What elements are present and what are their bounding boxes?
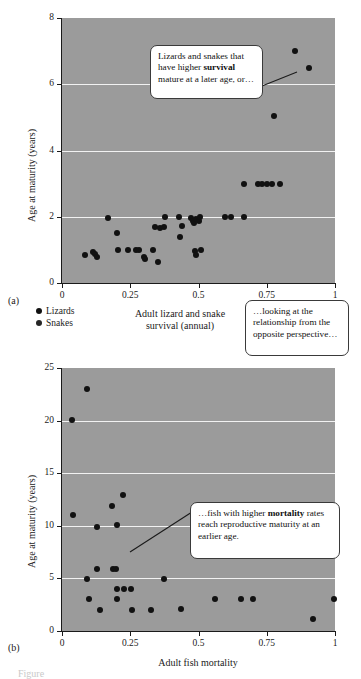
gridline-b: [62, 421, 335, 422]
x-axis-title-a-line2: survival (annual): [146, 320, 214, 331]
gridline-b: [62, 473, 335, 474]
data-point: [84, 576, 90, 582]
data-point: [148, 607, 154, 613]
panel-letter-a: (a): [8, 295, 19, 306]
x-tick-mark: [130, 284, 131, 288]
data-point: [115, 247, 121, 253]
y-tick-label: 5: [30, 574, 54, 584]
data-point: [114, 586, 120, 592]
legend-label-snakes: Snakes: [46, 317, 73, 329]
x-tick-mark: [62, 284, 63, 288]
x-axis-title-b: Adult fish mortality: [138, 657, 258, 669]
callout-1-bold: survival: [203, 62, 235, 72]
y-axis-b: [61, 368, 62, 632]
data-point: [269, 181, 275, 187]
y-tick-label: 25: [30, 363, 54, 373]
legend-item-snakes: Snakes: [36, 317, 75, 329]
y-tick-label: 20: [30, 416, 54, 426]
callout-3-text-before: …fish with higher: [198, 508, 268, 518]
y-tick-mark: [57, 151, 61, 152]
data-point: [97, 607, 103, 613]
y-tick-mark: [57, 84, 61, 85]
x-tick-mark: [199, 284, 200, 288]
callout-3-bold: mortality: [268, 508, 305, 518]
y-tick-label: 6: [30, 80, 54, 90]
x-axis-title-a-line1: Adult lizard and snake: [135, 308, 225, 319]
x-tick-label: 0.25: [122, 291, 139, 301]
data-point: [120, 492, 126, 498]
data-point: [129, 607, 135, 613]
data-point: [150, 247, 156, 253]
y-tick-mark: [57, 217, 61, 218]
data-point: [142, 256, 148, 262]
y-tick-mark: [57, 526, 61, 527]
data-point: [238, 596, 244, 602]
y-axis-a: [61, 18, 62, 284]
data-point: [241, 181, 247, 187]
legend-label-lizards: Lizards: [46, 305, 75, 317]
x-tick-label: 0.5: [193, 291, 205, 301]
x-tick-mark: [267, 632, 268, 636]
x-tick-label: 1: [333, 639, 338, 649]
y-tick-label: 0: [30, 626, 54, 636]
x-tick-mark: [335, 632, 336, 636]
callout-1-text-after: mature at a later age, or…: [158, 74, 254, 84]
data-point: [84, 386, 90, 392]
data-point: [193, 252, 199, 258]
data-point: [109, 503, 115, 509]
legend-dot-lizards: [36, 308, 42, 314]
leader-line-3: [128, 507, 198, 557]
data-point: [94, 254, 100, 260]
x-tick-mark: [267, 284, 268, 288]
data-point: [105, 215, 111, 221]
data-point: [241, 214, 247, 220]
data-point: [94, 566, 100, 572]
y-tick-mark: [57, 421, 61, 422]
gridline-a: [62, 151, 335, 152]
data-point: [114, 230, 120, 236]
data-point: [161, 576, 167, 582]
data-point: [228, 214, 234, 220]
x-tick-label: 0: [60, 639, 65, 649]
callout-survival: Lizards and snakes that have higher surv…: [150, 45, 263, 99]
data-point: [177, 234, 183, 240]
data-point: [197, 214, 203, 220]
y-axis-title-b: Age at maturity (years): [26, 475, 37, 568]
x-tick-mark: [335, 284, 336, 288]
x-axis-title-a: Adult lizard and snake survival (annual): [120, 308, 240, 331]
data-point: [271, 113, 277, 119]
x-tick-mark: [130, 632, 131, 636]
x-tick-label: 0: [60, 291, 65, 301]
data-point: [310, 616, 316, 622]
x-tick-label: 0.5: [193, 639, 205, 649]
data-point: [114, 596, 120, 602]
data-point: [121, 586, 127, 592]
y-tick-mark: [57, 18, 61, 19]
data-point: [178, 606, 184, 612]
x-tick-label: 0.75: [258, 639, 275, 649]
data-point: [128, 586, 134, 592]
panel-letter-b: (b): [8, 642, 20, 653]
y-axis-title-a: Age at maturity (years): [26, 129, 37, 222]
data-point: [162, 214, 168, 220]
data-point: [155, 259, 161, 265]
data-point: [114, 522, 120, 528]
y-tick-mark: [57, 283, 61, 284]
legend: Lizards Snakes: [36, 305, 75, 329]
data-point: [250, 596, 256, 602]
data-point: [292, 48, 298, 54]
leader-line-1: [255, 60, 315, 100]
data-point: [94, 524, 100, 530]
data-point: [113, 566, 119, 572]
data-point: [212, 596, 218, 602]
data-point: [69, 417, 75, 423]
callout-perspective: …looking at the relationship from the op…: [245, 300, 349, 356]
x-tick-mark: [199, 632, 200, 636]
data-point: [277, 181, 283, 187]
callout-2-text: …looking at the relationship from the op…: [253, 306, 337, 339]
data-point: [176, 214, 182, 220]
y-tick-mark: [57, 368, 61, 369]
y-tick-label: 0: [30, 278, 54, 288]
y-tick-label: 8: [30, 13, 54, 23]
data-point: [198, 247, 204, 253]
